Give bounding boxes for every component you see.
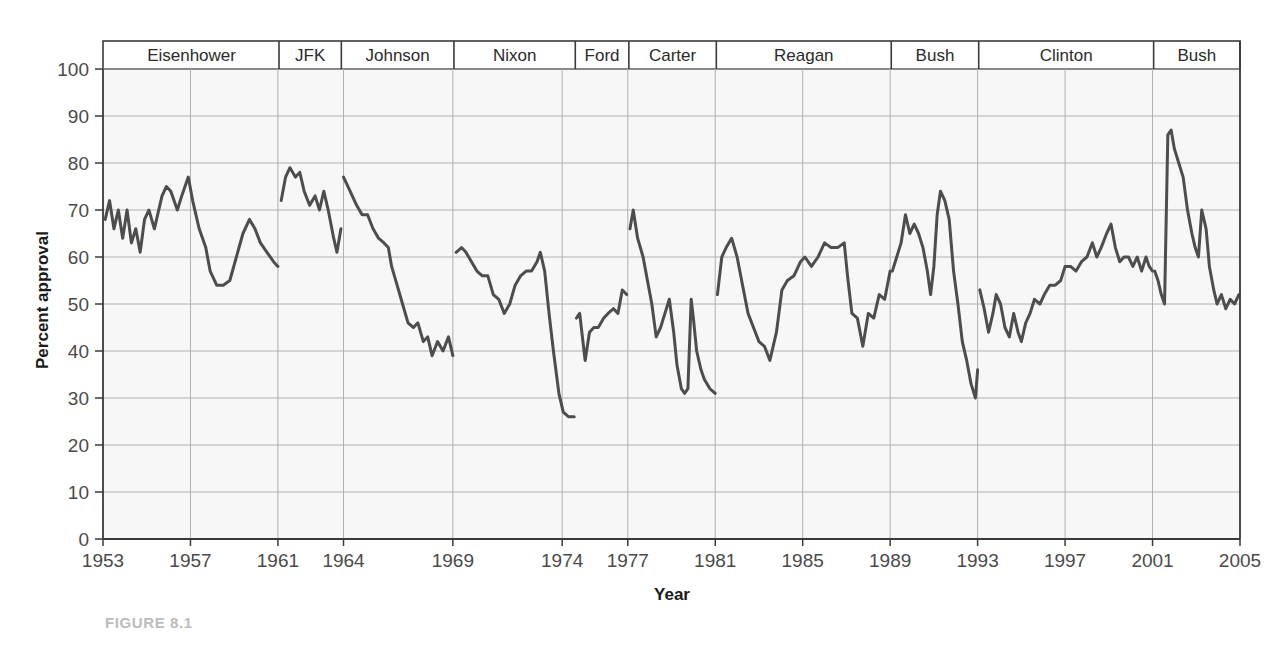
- y-tick-label: 0: [78, 529, 89, 550]
- y-tick-label: 80: [68, 153, 89, 174]
- administration-label-carter: Carter: [649, 46, 697, 65]
- administration-label-bush: Bush: [916, 46, 955, 65]
- administration-labels: EisenhowerJFKJohnsonNixonFordCarterReaga…: [147, 46, 1216, 65]
- x-tick-label: 1997: [1044, 550, 1086, 571]
- x-tick-label: 1977: [607, 550, 649, 571]
- x-tick-label: 1957: [169, 550, 211, 571]
- x-axis-title: Year: [654, 585, 690, 604]
- administration-label-eisenhower: Eisenhower: [147, 46, 236, 65]
- administration-label-clinton: Clinton: [1040, 46, 1093, 65]
- x-tick-label: 1989: [869, 550, 911, 571]
- x-tick-label: 1981: [694, 550, 736, 571]
- y-tick-label: 30: [68, 388, 89, 409]
- administration-label-jfk: JFK: [295, 46, 326, 65]
- x-tick-label: 1964: [322, 550, 365, 571]
- figure-caption: FIGURE 8.1: [105, 614, 193, 631]
- y-axis-title: Percent approval: [33, 231, 52, 369]
- x-tick-label: 1953: [82, 550, 124, 571]
- y-tick-label: 90: [68, 106, 89, 127]
- y-tick-label: 10: [68, 482, 89, 503]
- administration-label-reagan: Reagan: [774, 46, 834, 65]
- figure-container: EisenhowerJFKJohnsonNixonFordCarterReaga…: [0, 0, 1285, 655]
- y-tick-label: 70: [68, 200, 89, 221]
- y-tick-label: 50: [68, 294, 89, 315]
- y-tick-label: 40: [68, 341, 89, 362]
- x-tick-label: 1993: [956, 550, 998, 571]
- x-tick-label: 2005: [1219, 550, 1261, 571]
- x-tick-label: 2001: [1131, 550, 1173, 571]
- administration-label-bush: Bush: [1177, 46, 1216, 65]
- x-tick-label: 1974: [541, 550, 584, 571]
- y-tick-label: 20: [68, 435, 89, 456]
- y-tick-label: 100: [57, 59, 89, 80]
- x-tick-label: 1969: [432, 550, 474, 571]
- administration-label-nixon: Nixon: [493, 46, 536, 65]
- x-tick-label: 1961: [257, 550, 299, 571]
- approval-rating-chart: EisenhowerJFKJohnsonNixonFordCarterReaga…: [0, 0, 1285, 655]
- x-tick-label: 1985: [782, 550, 824, 571]
- y-tick-label: 60: [68, 247, 89, 268]
- administration-label-johnson: Johnson: [365, 46, 429, 65]
- administration-label-ford: Ford: [585, 46, 620, 65]
